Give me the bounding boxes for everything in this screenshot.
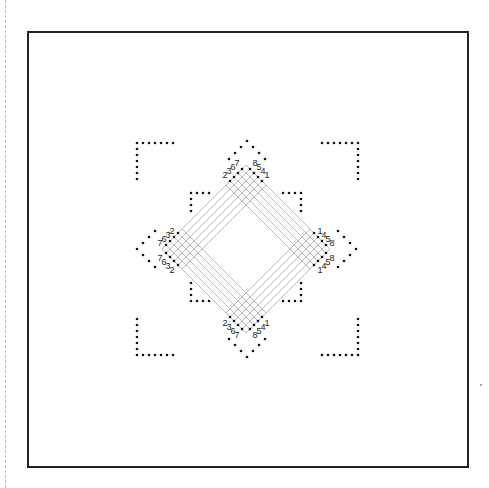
corner-dot xyxy=(357,148,360,151)
mesh-line xyxy=(170,173,254,257)
mesh-line xyxy=(234,237,318,321)
mesh-line xyxy=(242,169,326,253)
port-dot xyxy=(321,240,324,243)
chevron-dot xyxy=(148,260,151,263)
inner-corner-dot xyxy=(190,210,193,213)
port-dot xyxy=(233,176,236,179)
port-dot xyxy=(261,316,264,319)
corner-dot xyxy=(154,354,157,357)
diamond-mesh xyxy=(162,165,330,333)
chevron-dot xyxy=(246,140,249,143)
corner-dot xyxy=(357,160,360,163)
port-dot xyxy=(317,260,320,263)
chevron-dot xyxy=(349,242,352,245)
inner-corner-dot xyxy=(196,192,199,195)
corner-dot xyxy=(345,354,348,357)
corner-dot xyxy=(160,354,163,357)
corner-dot xyxy=(357,318,360,321)
inner-corner-dot xyxy=(208,192,211,195)
inner-corner-dot xyxy=(202,300,205,303)
corner-dot xyxy=(136,354,139,357)
port-dot xyxy=(317,236,320,239)
chevron-dot xyxy=(136,248,139,251)
corner-dot xyxy=(148,354,151,357)
port-dot xyxy=(177,232,180,235)
corner-dot xyxy=(327,354,330,357)
corner-dot xyxy=(327,142,330,145)
corner-dot xyxy=(160,142,163,145)
port-dot xyxy=(237,324,240,327)
corner-dot xyxy=(136,342,139,345)
port-dot xyxy=(241,328,244,331)
corner-dot xyxy=(357,154,360,157)
corner-dot xyxy=(136,324,139,327)
inner-corner-dot xyxy=(196,300,199,303)
chevron-dot xyxy=(154,266,157,269)
diagram-canvas: 23678541236785412367763214588541 xyxy=(0,0,489,488)
chevron-dot xyxy=(234,344,237,347)
port-dot xyxy=(233,320,236,323)
corner-dot xyxy=(136,336,139,339)
chevron-dot xyxy=(349,254,352,257)
mesh-line xyxy=(242,245,326,329)
corner-dot xyxy=(136,160,139,163)
chevron-dot xyxy=(148,236,151,239)
corner-dot xyxy=(136,154,139,157)
port-label: 1 xyxy=(264,318,269,328)
corner-dot xyxy=(357,142,360,145)
port-dot xyxy=(325,244,328,247)
corner-dot xyxy=(339,354,342,357)
chevron-dot xyxy=(240,350,243,353)
corner-dot xyxy=(357,166,360,169)
port-dot xyxy=(173,236,176,239)
mesh-line xyxy=(234,177,318,261)
mesh-line xyxy=(226,185,310,269)
corner-dot xyxy=(142,142,145,145)
port-dot xyxy=(177,264,180,267)
chevron-dot xyxy=(228,338,231,341)
port-dot xyxy=(253,172,256,175)
corner-dot xyxy=(136,330,139,333)
port-dot xyxy=(313,232,316,235)
chevron-dot xyxy=(355,248,358,251)
port-label: 8 xyxy=(329,238,334,248)
chevron-dot xyxy=(252,146,255,149)
corner-dot xyxy=(339,142,342,145)
mesh-line xyxy=(174,237,258,321)
inner-corner-dot xyxy=(294,192,297,195)
inner-corner-dot xyxy=(282,300,285,303)
inner-corner-dot xyxy=(300,294,303,297)
mesh-line xyxy=(182,185,266,269)
inner-corner-dot xyxy=(190,282,193,285)
corner-dot xyxy=(321,142,324,145)
chevron-dot xyxy=(252,350,255,353)
corner-dot xyxy=(148,142,151,145)
corner-dot xyxy=(154,142,157,145)
chevron-dot xyxy=(337,230,340,233)
inner-corner-dot xyxy=(190,288,193,291)
corner-dot xyxy=(357,330,360,333)
corner-dot xyxy=(351,142,354,145)
inner-corner-dot xyxy=(300,288,303,291)
inner-corner-dot xyxy=(300,204,303,207)
port-dot xyxy=(169,240,172,243)
port-dot xyxy=(313,264,316,267)
mesh-line xyxy=(238,241,322,325)
corner-dot xyxy=(136,172,139,175)
corner-dot xyxy=(136,348,139,351)
port-dot xyxy=(249,328,252,331)
port-dot xyxy=(229,316,232,319)
port-dot xyxy=(257,320,260,323)
inner-corner-dot xyxy=(300,210,303,213)
inner-corner-dot xyxy=(288,300,291,303)
port-label: 2 xyxy=(169,265,174,275)
port-dot xyxy=(165,244,168,247)
inner-corner-dot xyxy=(190,204,193,207)
corner-dot xyxy=(166,354,169,357)
chevron-dot xyxy=(264,338,267,341)
inner-corner-dot xyxy=(288,192,291,195)
corner-dot xyxy=(142,354,145,357)
port-label: 7 xyxy=(234,158,239,168)
corner-dot xyxy=(136,178,139,181)
port-labels: 23678541236785412367763214588541 xyxy=(157,158,334,340)
